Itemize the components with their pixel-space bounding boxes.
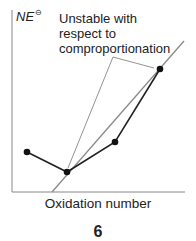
data-point [157, 66, 164, 73]
annotation-line-2: respect to [59, 26, 196, 41]
x-axis-label: Oxidation number [0, 196, 196, 211]
annotation-line-1: Unstable with [59, 11, 196, 26]
data-point [64, 169, 71, 176]
data-point [24, 149, 31, 156]
annotation-line-3: comproportionation [59, 41, 196, 56]
data-line [27, 69, 160, 172]
standard-state-symbol: ⊖ [35, 8, 42, 17]
y-axis-label-text: NE [16, 9, 34, 24]
annotation: Unstable with respect to comproportionat… [59, 11, 196, 56]
callout-leader [68, 57, 154, 168]
figure-number: 6 [0, 223, 196, 241]
data-point [112, 139, 119, 146]
y-axis-label: NE⊖ [16, 8, 42, 24]
